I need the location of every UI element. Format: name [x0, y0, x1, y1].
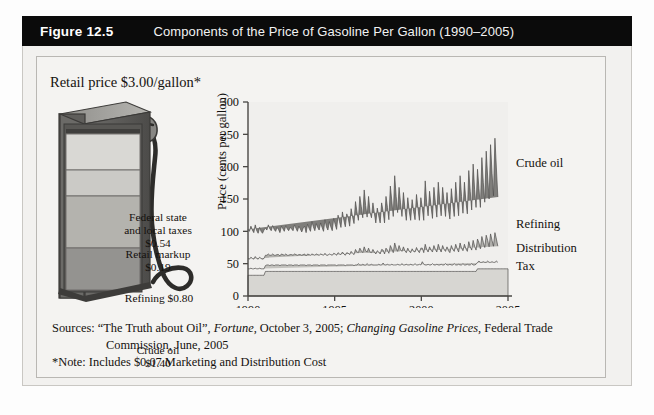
sources-note: *Note: Includes $0.07 Marketing and Dist… — [52, 354, 597, 371]
sources-text-a: “The Truth about Oil”, — [95, 321, 214, 335]
svg-text:1990: 1990 — [236, 303, 261, 308]
pump-label-refining: Refining $0.80 — [114, 292, 204, 305]
svg-text:150: 150 — [221, 192, 239, 206]
svg-text:50: 50 — [227, 257, 239, 271]
sources-label: Sources: — [52, 321, 95, 335]
svg-text:1995: 1995 — [322, 303, 347, 308]
pump-label-tax: Federal state and local taxes $0.54 — [116, 211, 200, 249]
series-label-tax: Tax — [516, 259, 535, 273]
svg-text:0: 0 — [233, 289, 239, 303]
sources-text-c: , Federal Trade — [478, 321, 553, 335]
retail-price-caption: Retail price $3.00/gallon* — [50, 74, 201, 91]
figure-number: Figure 12.5 — [40, 24, 113, 39]
sources-italic-changing-gasoline-prices: Changing Gasoline Prices — [347, 321, 478, 335]
area-chart: Price (cents per gallon) 050100150200250… — [204, 92, 604, 308]
pump-segment-tax — [66, 134, 140, 170]
area-series-tax — [248, 269, 508, 296]
gas-pump-illustration: Federal state and local taxes $0.54 Reta… — [54, 96, 204, 308]
figure-header-bar: Figure 12.5 Components of the Price of G… — [22, 16, 632, 46]
svg-text:100: 100 — [221, 225, 239, 239]
series-label-distribution: Distribution — [516, 241, 578, 255]
svg-text:2005: 2005 — [496, 303, 521, 308]
gas-pump-svg — [54, 96, 204, 308]
figure-root: Figure 12.5 Components of the Price of G… — [0, 0, 654, 415]
series-label-refining: Refining — [516, 217, 561, 231]
svg-text:2000: 2000 — [409, 303, 434, 308]
svg-text:250: 250 — [221, 128, 239, 142]
pump-label-retail-markup: Retail markup $0.19 — [116, 248, 200, 274]
sources-block: Sources: “The Truth about Oil”, Fortune,… — [52, 320, 597, 371]
svg-text:300: 300 — [221, 95, 239, 109]
svg-text:200: 200 — [221, 160, 239, 174]
series-label-crude-oil: Crude oil — [516, 156, 564, 170]
chart-plot-area: 0501001502002503001990199520002005Crude … — [204, 92, 604, 308]
sources-line-1: Sources: “The Truth about Oil”, Fortune,… — [52, 320, 597, 337]
sources-line-2: Commission, June, 2005 — [106, 337, 597, 354]
pump-segment-retail-markup — [66, 170, 140, 196]
figure-title: Components of the Price of Gasoline Per … — [153, 24, 514, 39]
sources-italic-fortune: Fortune — [214, 321, 254, 335]
sources-text-b: , October 3, 2005; — [254, 321, 347, 335]
pump-panel-ridge — [66, 129, 140, 133]
